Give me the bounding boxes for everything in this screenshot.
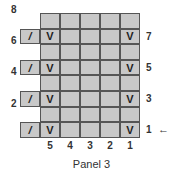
stitch-cell	[60, 107, 80, 123]
column-number: 3	[80, 140, 100, 151]
panel-caption: Panel 3	[0, 158, 183, 170]
row-number: 4	[11, 66, 17, 77]
stitch-cell: V	[40, 122, 60, 138]
stitch-cell	[60, 29, 80, 45]
column-number: 1	[120, 140, 140, 151]
row-number: 7	[146, 31, 152, 42]
row-number: 1	[146, 124, 152, 135]
stitch-cell	[100, 44, 120, 60]
stitch-cell	[60, 75, 80, 91]
row-number: 5	[146, 62, 152, 73]
grid-row: /VV	[40, 29, 140, 45]
stitch-cell: V	[40, 91, 60, 107]
stitch-cell	[120, 107, 140, 123]
stitch-cell	[60, 60, 80, 76]
stitch-cell	[100, 107, 120, 123]
stitch-cell	[120, 44, 140, 60]
grid-row	[40, 107, 140, 123]
grid-row: /VV	[40, 60, 140, 76]
stitch-cell	[80, 13, 100, 29]
stitch-cell	[40, 107, 60, 123]
stitch-cell	[40, 13, 60, 29]
stitch-cell	[60, 122, 80, 138]
stitch-cell	[60, 44, 80, 60]
stitch-cell	[60, 13, 80, 29]
stitch-cell	[80, 60, 100, 76]
stitch-cell: V	[120, 60, 140, 76]
grid-row	[40, 75, 140, 91]
stitch-cell	[100, 13, 120, 29]
stitch-cell: V	[120, 29, 140, 45]
column-number: 4	[60, 140, 80, 151]
grid-row: /VV	[40, 91, 140, 107]
grid-row: /VV	[40, 122, 140, 138]
stitch-cell	[80, 91, 100, 107]
stitch-cell	[80, 44, 100, 60]
row-number: 6	[11, 35, 17, 46]
stitch-cell: V	[40, 60, 60, 76]
stitch-cell	[40, 75, 60, 91]
stitch-cell	[100, 91, 120, 107]
extra-stitch-cell: /	[20, 122, 40, 138]
stitch-cell	[120, 75, 140, 91]
stitch-cell: V	[120, 91, 140, 107]
row-number: 2	[11, 98, 17, 109]
stitch-cell: V	[120, 122, 140, 138]
extra-stitch-cell: /	[20, 29, 40, 45]
column-number: 5	[40, 140, 60, 151]
stitch-cell	[100, 29, 120, 45]
extra-stitch-cell: /	[20, 60, 40, 76]
extra-stitch-cell: /	[20, 91, 40, 107]
stitch-cell	[80, 122, 100, 138]
column-number: 2	[100, 140, 120, 151]
stitch-cell: V	[40, 29, 60, 45]
stitch-cell	[100, 122, 120, 138]
grid-row	[40, 13, 140, 29]
stitch-cell	[80, 75, 100, 91]
stitch-cell	[120, 13, 140, 29]
stitch-cell	[40, 44, 60, 60]
grid-row	[40, 44, 140, 60]
stitch-cell	[80, 107, 100, 123]
stitch-cell	[60, 91, 80, 107]
stitch-cell	[100, 60, 120, 76]
chart-grid: /VV/VV/VV/VV	[40, 13, 140, 138]
row-number: 8	[11, 4, 17, 15]
start-arrow-icon: ←	[158, 123, 169, 135]
stitch-cell	[100, 75, 120, 91]
row-number: 3	[146, 93, 152, 104]
stitch-cell	[80, 29, 100, 45]
